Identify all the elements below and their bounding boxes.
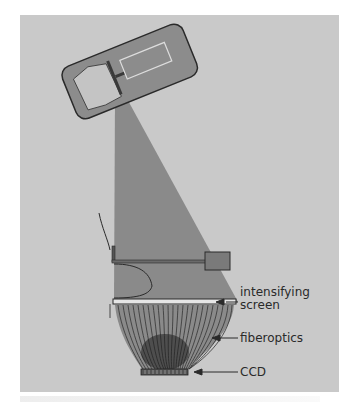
label-screen-line2: screen xyxy=(240,299,310,312)
label-ccd: CCD xyxy=(240,366,266,379)
x-ray-beam xyxy=(114,95,238,302)
ccd xyxy=(141,369,188,375)
label-intensifying-screen: intensifying screen xyxy=(240,286,310,312)
patient-contour xyxy=(99,213,110,250)
faded-caption-bleed xyxy=(20,396,320,402)
arrow-ccd xyxy=(194,369,238,375)
label-fiberoptics: fiberoptics xyxy=(240,332,303,345)
